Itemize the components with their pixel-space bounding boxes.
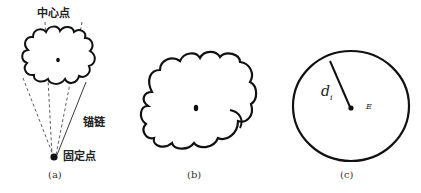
fixed-point-dot	[50, 153, 57, 160]
radius-subscript: i	[330, 93, 333, 102]
caption-b: (b)	[187, 170, 201, 180]
radius-label: di	[321, 84, 333, 98]
center-point-dot-a	[56, 58, 60, 63]
panel-b	[141, 52, 256, 149]
radius-symbol: d	[321, 83, 330, 99]
anchor-chain-label: 锚链	[83, 117, 105, 128]
center-point-dot-c	[348, 105, 353, 110]
region-label: E	[366, 103, 372, 111]
cloud-shape-b	[141, 52, 256, 149]
fixed-point-label: 固定点	[63, 151, 96, 162]
center-point-dot-b	[194, 105, 198, 111]
panel-a	[22, 22, 95, 161]
diagram-canvas	[0, 0, 421, 193]
caption-a: (a)	[48, 170, 62, 180]
anchor-chain-line	[57, 82, 86, 155]
panel-c	[293, 51, 409, 161]
center-point-label: 中心点	[37, 8, 70, 19]
caption-c: (c)	[340, 170, 353, 180]
cloud-shape-a	[22, 27, 95, 84]
